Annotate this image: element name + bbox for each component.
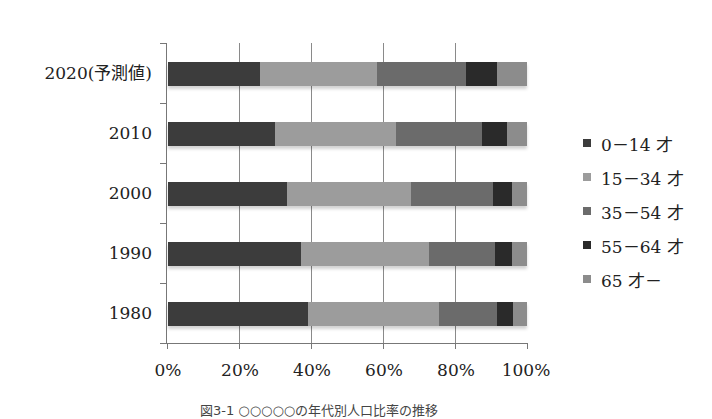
bar-segment xyxy=(507,122,527,146)
bar-segment xyxy=(439,302,497,326)
bar-segment xyxy=(497,302,513,326)
x-label-20: 20% xyxy=(221,360,259,380)
y-label-2000: 2000 xyxy=(109,183,152,203)
bar-segment xyxy=(411,182,494,206)
x-tick xyxy=(527,343,528,349)
figure-caption: 図3-1 ○○○○○の年代別人口比率の推移 xyxy=(200,400,438,419)
x-label-40: 40% xyxy=(293,360,331,380)
bar-segment xyxy=(482,122,507,146)
legend-swatch-icon xyxy=(583,173,591,181)
legend-label: 15－34 才 xyxy=(601,165,684,190)
x-label-60: 60% xyxy=(365,360,403,380)
x-tick xyxy=(311,343,312,349)
legend-swatch-icon xyxy=(583,207,591,215)
x-tick xyxy=(167,343,168,349)
legend-swatch-icon xyxy=(583,241,591,249)
bar-segment xyxy=(275,122,396,146)
bar-segment xyxy=(495,242,512,266)
y-label-2020: 2020(予測値) xyxy=(44,63,152,83)
legend-item-0-14: 0－14 才 xyxy=(583,126,684,160)
bar-segment xyxy=(301,242,429,266)
y-tick xyxy=(160,43,167,44)
legend-label: 35－54 才 xyxy=(601,199,684,224)
bar-row xyxy=(168,62,527,86)
bar-segment xyxy=(493,182,512,206)
y-tick xyxy=(160,283,167,284)
legend-label: 55－64 才 xyxy=(601,233,684,258)
y-label-1980: 1980 xyxy=(109,303,152,323)
bar-segment xyxy=(377,62,466,86)
bar-segment xyxy=(168,302,308,326)
bar-segment xyxy=(497,62,527,86)
y-label-2010: 2010 xyxy=(109,123,152,143)
legend-swatch-icon xyxy=(583,139,591,147)
x-label-80: 80% xyxy=(437,360,475,380)
bar-segment xyxy=(396,122,482,146)
legend-label: 65 才－ xyxy=(601,267,662,292)
x-tick xyxy=(455,343,456,349)
x-tick xyxy=(383,343,384,349)
bar-segment xyxy=(168,242,301,266)
x-label-100: 100% xyxy=(502,360,551,380)
x-label-0: 0% xyxy=(155,360,182,380)
legend-item-15-34: 15－34 才 xyxy=(583,160,684,194)
y-tick xyxy=(160,223,167,224)
bar-row xyxy=(168,122,527,146)
bar-segment xyxy=(466,62,497,86)
legend-label: 0－14 才 xyxy=(601,131,673,156)
y-tick xyxy=(160,163,167,164)
bar-segment xyxy=(168,182,287,206)
bar-segment xyxy=(308,302,439,326)
legend-item-35-54: 35－54 才 xyxy=(583,194,684,228)
bar-row xyxy=(168,242,527,266)
legend-swatch-icon xyxy=(583,275,591,283)
legend: 0－14 才 15－34 才 35－54 才 55－64 才 65 才－ xyxy=(583,126,684,296)
y-label-1990: 1990 xyxy=(109,243,152,263)
bar-segment xyxy=(512,182,527,206)
bar-segment xyxy=(287,182,411,206)
bar-segment xyxy=(429,242,495,266)
bar-row xyxy=(168,302,527,326)
y-tick xyxy=(160,343,167,344)
y-axis-line xyxy=(166,43,167,344)
bar-segment xyxy=(168,62,260,86)
bar-segment xyxy=(512,242,527,266)
bar-segment xyxy=(168,122,275,146)
y-tick xyxy=(160,103,167,104)
bar-segment xyxy=(260,62,377,86)
bar-row xyxy=(168,182,527,206)
x-tick xyxy=(239,343,240,349)
legend-item-65-plus: 65 才－ xyxy=(583,262,684,296)
legend-item-55-64: 55－64 才 xyxy=(583,228,684,262)
bar-segment xyxy=(513,302,527,326)
x-axis-line xyxy=(160,343,528,344)
